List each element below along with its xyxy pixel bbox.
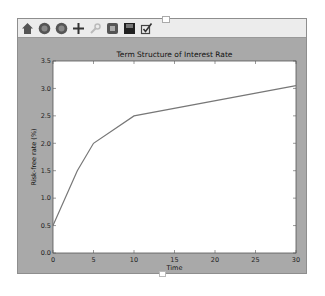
- x-tick-label: 20: [211, 256, 219, 264]
- y-tick-label: 1.5: [41, 167, 51, 175]
- x-tick-label: 5: [91, 256, 95, 264]
- x-tick-label: 25: [251, 256, 259, 264]
- y-tick-label: 2.0: [41, 140, 51, 148]
- chart: Term Structure of Interest Rate 0.00.51.…: [0, 0, 325, 296]
- y-tick-label: 0.0: [41, 249, 51, 257]
- plot-area: [53, 61, 296, 253]
- y-axis-label: Risk-free rate (%): [30, 128, 38, 185]
- x-tick-label: 0: [51, 256, 55, 264]
- y-tick-label: 3.0: [41, 85, 51, 93]
- y-tick-label: 2.5: [41, 112, 51, 120]
- chart-title: Term Structure of Interest Rate: [116, 50, 233, 59]
- x-tick-label: 30: [292, 256, 300, 264]
- y-tick-label: 0.5: [41, 222, 51, 230]
- y-tick-label: 1.0: [41, 194, 51, 202]
- y-tick-label: 3.5: [41, 57, 51, 65]
- x-tick-label: 15: [170, 256, 178, 264]
- x-axis-label: Time: [166, 264, 183, 272]
- x-tick-label: 10: [130, 256, 138, 264]
